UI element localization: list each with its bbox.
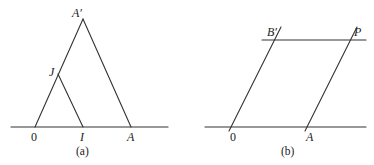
figure: A′ J 0 I A (a) B′ P 0 A (b) (0, 0, 374, 165)
label-a-b: A (305, 130, 314, 144)
label-a: A (126, 130, 135, 144)
panel-b: B′ P 0 A (b) (205, 25, 366, 158)
label-b-prime: B′ (267, 25, 277, 39)
label-a-prime: A′ (71, 6, 82, 20)
panel-a: A′ J 0 I A (a) (11, 6, 168, 158)
caption-a: (a) (76, 145, 89, 158)
label-origin-b: 0 (230, 130, 236, 144)
diagram-canvas: A′ J 0 I A (a) B′ P 0 A (b) (0, 0, 374, 165)
label-p: P (353, 25, 362, 39)
label-j: J (49, 65, 55, 79)
segment-a-prime-a (83, 19, 131, 127)
segment-j-i (58, 74, 83, 127)
label-origin-a: 0 (31, 130, 37, 144)
segment-0-b-prime (229, 27, 281, 131)
caption-b: (b) (281, 145, 295, 158)
segment-a-p (305, 27, 357, 131)
label-i: I (79, 130, 85, 144)
